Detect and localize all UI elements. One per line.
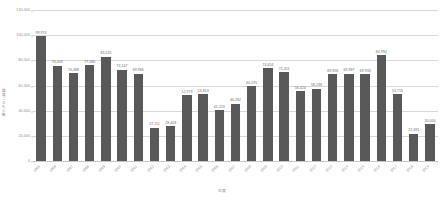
x-tick: 1998 — [82, 162, 98, 180]
bar-item: 27,111 — [146, 11, 162, 162]
bar-value-label: 41,223 — [214, 106, 225, 110]
bar-value-label: 69,987 — [343, 69, 354, 73]
bar-item: 53,716 — [389, 11, 405, 162]
y-tick-label: 0 — [28, 160, 30, 164]
bar — [425, 124, 434, 162]
x-tick: 2000 — [114, 162, 130, 180]
bar-item: 74,654 — [260, 11, 276, 162]
x-tick: 2008 — [244, 162, 260, 180]
bar-value-label: 53,716 — [392, 90, 403, 94]
bar — [36, 36, 45, 162]
x-tick-label: 2001 — [131, 165, 147, 181]
bar — [101, 57, 110, 162]
bar — [296, 91, 305, 162]
bar-item: 69,986 — [130, 11, 146, 162]
bar-value-label: 27,111 — [149, 123, 160, 127]
bar-item: 73,147 — [114, 11, 130, 162]
bar — [312, 89, 321, 162]
bar — [377, 55, 386, 162]
bar-value-label: 71,311 — [279, 68, 290, 72]
bar — [117, 70, 126, 162]
bar-item: 69,987 — [341, 11, 357, 162]
x-tick: 2014 — [341, 162, 357, 180]
x-tick: 1996 — [49, 162, 65, 180]
x-tick-label: 2010 — [276, 165, 292, 181]
bar-value-label: 83,525 — [100, 52, 111, 56]
x-tick: 2009 — [260, 162, 276, 180]
y-tick-label: 120,000 — [16, 9, 30, 13]
bar-item: 69,926 — [325, 11, 341, 162]
bar — [166, 126, 175, 162]
x-tick-label: 2000 — [114, 165, 130, 181]
bar-value-label: 22,491 — [408, 129, 419, 133]
bar-value-label: 46,282 — [230, 99, 241, 103]
x-tick: 1999 — [98, 162, 114, 180]
bar-value-label: 70,488 — [68, 69, 79, 73]
x-tick: 2012 — [308, 162, 324, 180]
x-tick: 2001 — [130, 162, 146, 180]
bar-item: 53,813 — [195, 11, 211, 162]
x-tick-label: 2011 — [293, 165, 308, 180]
bar — [247, 86, 256, 162]
bar-item: 69,933 — [357, 11, 373, 162]
bar — [182, 95, 191, 162]
bar — [231, 104, 240, 162]
x-tick: 2011 — [292, 162, 308, 180]
bar-chart: 職員こども人数 020,00040,00060,00080,000100,000… — [0, 0, 444, 206]
x-tick: 2018 — [406, 162, 422, 180]
bar-item: 56,424 — [292, 11, 308, 162]
bar-value-label: 60,191 — [246, 82, 257, 86]
x-tick-label: 2005 — [195, 165, 211, 181]
y-tick-label: 60,000 — [18, 85, 30, 89]
x-tick-label: 2002 — [147, 165, 163, 181]
bar-item: 60,191 — [244, 11, 260, 162]
bar-item: 84,994 — [373, 11, 389, 162]
bar-item: 71,311 — [276, 11, 292, 162]
x-tick: 2005 — [195, 162, 211, 180]
x-tick-label: 2013 — [325, 165, 341, 181]
x-tick-label: 2004 — [179, 165, 195, 181]
x-tick-label: 2008 — [244, 165, 260, 181]
y-tick-label: 40,000 — [18, 110, 30, 114]
bar-item: 52,973 — [179, 11, 195, 162]
bar — [69, 73, 78, 162]
x-tick: 2015 — [357, 162, 373, 180]
bar — [328, 74, 337, 162]
bar-value-label: 69,926 — [327, 70, 338, 74]
x-tick: 2003 — [163, 162, 179, 180]
bar-value-label: 56,424 — [295, 87, 306, 91]
bar — [344, 74, 353, 162]
x-tick-label: 1996 — [50, 165, 66, 181]
bar — [85, 65, 94, 162]
bar — [150, 128, 159, 162]
bar — [134, 74, 143, 162]
bar-value-label: 28,403 — [165, 122, 176, 126]
bar-item: 22,491 — [406, 11, 422, 162]
x-tick: 2006 — [211, 162, 227, 180]
x-axis-ticks: 1995199619971998199920002001200220032004… — [33, 162, 438, 180]
bar-item: 76,403 — [49, 11, 65, 162]
bar-item: 46,282 — [227, 11, 243, 162]
bar-value-label: 69,986 — [133, 69, 144, 73]
bar-value-label: 30,000 — [424, 120, 435, 124]
y-tick-label: 100,000 — [16, 34, 30, 38]
x-tick: 2007 — [227, 162, 243, 180]
x-tick-label: 1999 — [98, 165, 114, 181]
x-axis-title: 年度 — [0, 190, 444, 194]
bar — [215, 110, 224, 162]
bar — [198, 94, 207, 162]
x-tick: 2004 — [179, 162, 195, 180]
x-tick-label: 2015 — [357, 165, 373, 181]
bar — [279, 72, 288, 162]
x-tick-label: 2014 — [341, 165, 357, 181]
x-tick: 2019 — [422, 162, 438, 180]
x-tick-label: 2003 — [163, 165, 179, 181]
bar-item: 70,488 — [65, 11, 81, 162]
bar-value-label: 69,933 — [360, 70, 371, 74]
bar-value-label: 74,654 — [262, 64, 273, 68]
bar-value-label: 77,080 — [84, 61, 95, 65]
y-tick-label: 80,000 — [18, 60, 30, 64]
y-axis-ticks: 020,00040,00060,00080,000100,000120,000 — [0, 11, 33, 162]
bar-value-label: 52,973 — [181, 91, 192, 95]
x-tick-label: 1995 — [33, 165, 49, 181]
